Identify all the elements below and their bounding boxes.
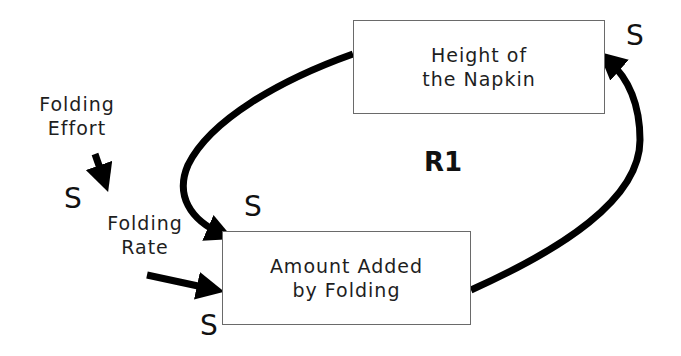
link-effort-to-rate [95, 154, 104, 180]
polarity-amount-to-height: S [626, 22, 644, 50]
node-amount-label-line2: by Folding [270, 278, 423, 302]
node-amount-added-by-folding: Amount Added by Folding [222, 231, 471, 325]
variable-folding-rate: Folding Rate [95, 211, 195, 259]
variable-folding-effort: Folding Effort [22, 92, 132, 140]
folding-rate-line1: Folding [95, 211, 195, 235]
link-rate-to-amount [147, 275, 212, 289]
node-height-label-line1: Height of [422, 43, 535, 67]
node-amount-label-line1: Amount Added [270, 254, 423, 278]
polarity-effort-to-rate: S [64, 185, 82, 213]
polarity-height-to-amount: S [244, 193, 262, 221]
folding-rate-line2: Rate [95, 235, 195, 259]
link-height-to-amount [183, 54, 353, 234]
folding-effort-line2: Effort [22, 116, 132, 140]
node-amount-label: Amount Added by Folding [270, 254, 423, 302]
folding-effort-line1: Folding [22, 92, 132, 116]
node-height-label-line2: the Napkin [422, 67, 535, 91]
node-height-label: Height of the Napkin [422, 43, 535, 91]
polarity-rate-to-amount: S [200, 312, 218, 340]
loop-label-r1: R1 [424, 148, 462, 176]
node-height-of-napkin: Height of the Napkin [353, 20, 605, 114]
